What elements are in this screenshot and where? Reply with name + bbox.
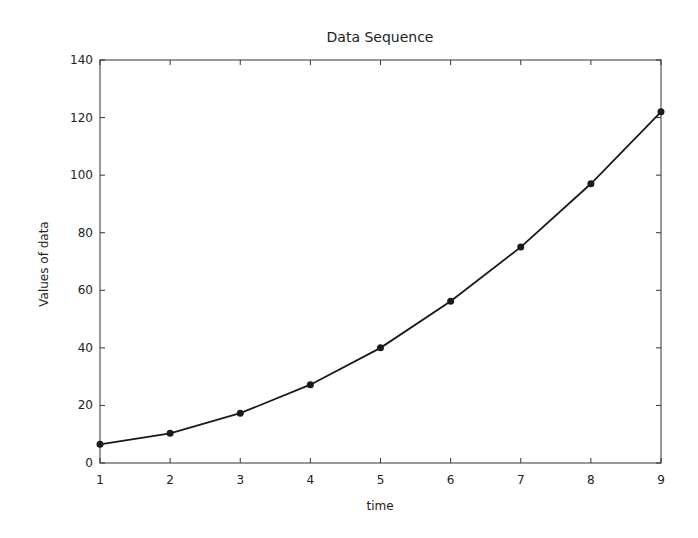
data-point-marker [167,430,174,437]
y-axis-label: Values of data [37,221,51,306]
y-tick-label: 80 [78,226,93,240]
x-tick-label: 7 [517,473,525,487]
y-tick-label: 20 [78,398,93,412]
y-tick-label: 0 [85,456,93,470]
x-tick-label: 2 [166,473,174,487]
x-tick-label: 5 [377,473,385,487]
line-chart: Data Sequence 123456789 0204060801001201… [0,0,698,538]
data-point-marker [658,108,665,115]
data-point-marker [237,410,244,417]
data-point-marker [447,298,454,305]
series-line [100,112,661,444]
y-tick-label: 120 [70,111,93,125]
x-axis-label: time [366,499,393,513]
data-point-marker [377,344,384,351]
x-tick-label: 1 [96,473,104,487]
data-point-marker [517,244,524,251]
data-point-marker [97,441,104,448]
y-tick-label: 100 [70,168,93,182]
data-point-marker [307,381,314,388]
x-tick-label: 6 [447,473,455,487]
data-series [97,108,665,447]
x-tick-label: 4 [307,473,315,487]
y-axis: 020406080100120140 [70,53,661,470]
x-tick-label: 8 [587,473,595,487]
data-point-marker [587,180,594,187]
x-tick-label: 3 [236,473,244,487]
plot-frame [100,60,661,463]
plot-area [100,60,661,463]
y-tick-label: 140 [70,53,93,67]
x-axis: 123456789 [96,60,665,487]
chart-title: Data Sequence [327,29,434,45]
y-tick-label: 40 [78,341,93,355]
y-tick-label: 60 [78,283,93,297]
x-tick-label: 9 [657,473,665,487]
